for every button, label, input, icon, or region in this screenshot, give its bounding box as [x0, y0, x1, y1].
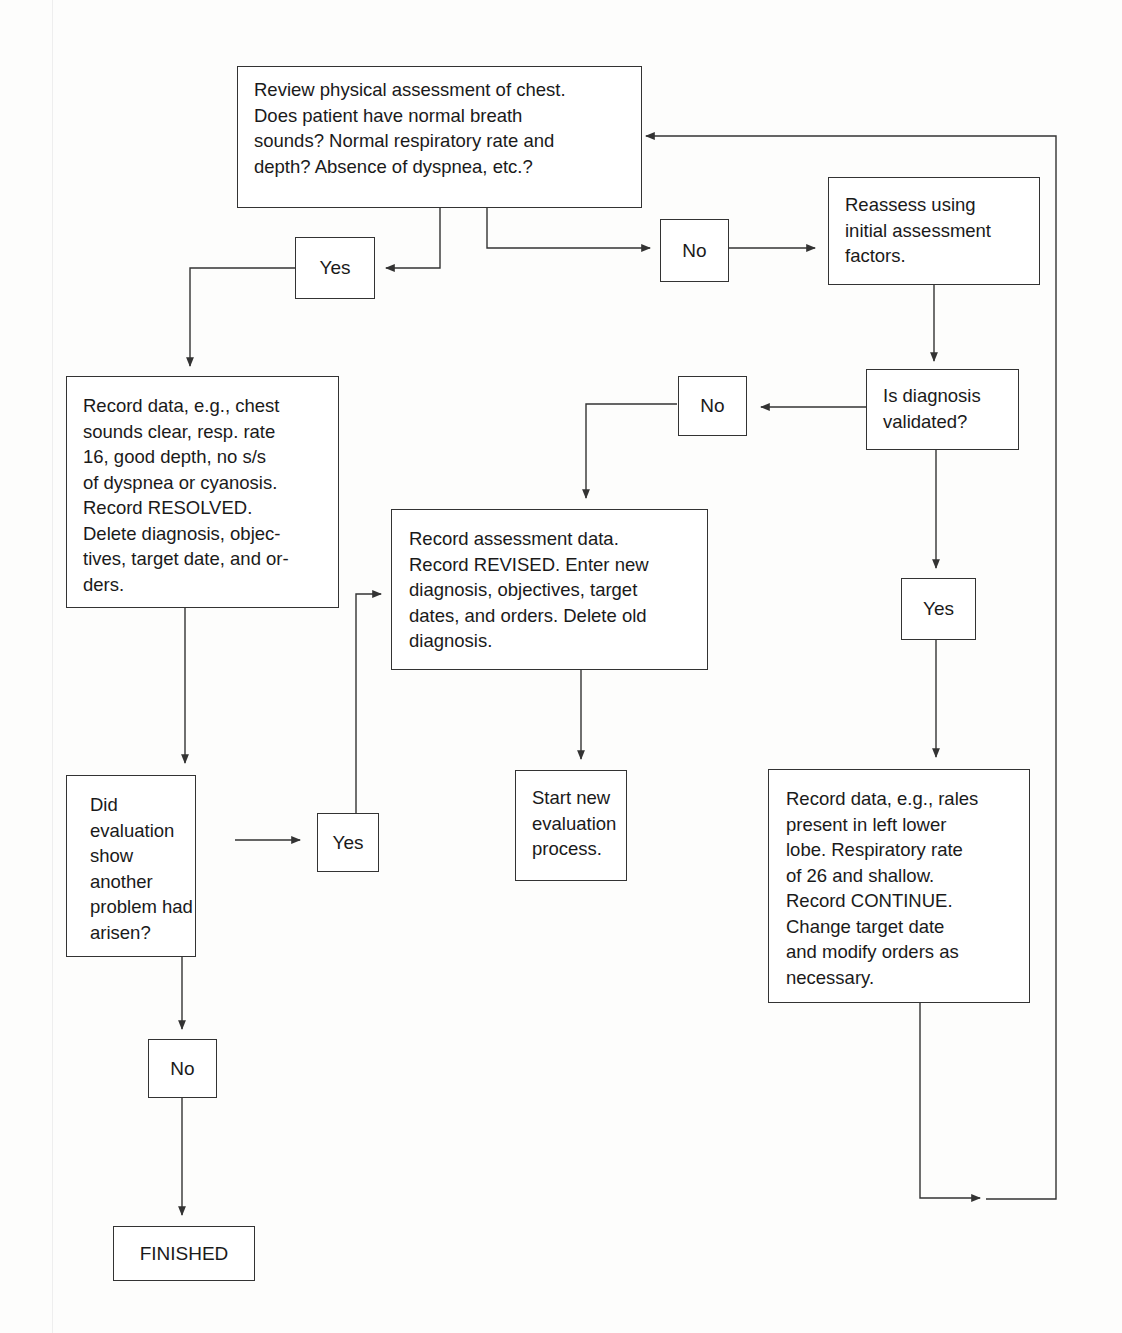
diagnosis-validated-box: Is diagnosis validated?	[866, 369, 1019, 450]
finished-box: FINISHED	[113, 1226, 255, 1281]
start-new-evaluation-box: Start new evaluation process.	[515, 770, 627, 881]
no-decision-validated: No	[678, 376, 747, 436]
edge-no-revised	[586, 404, 677, 498]
record-revised-box: Record assessment data. Record REVISED. …	[391, 509, 708, 670]
flowchart-canvas: Review physical assessment of chest. Doe…	[0, 0, 1122, 1333]
edge-yes-resolved	[190, 268, 295, 366]
yes-decision-problem: Yes	[317, 813, 379, 872]
review-assessment-box: Review physical assessment of chest. Doe…	[237, 66, 642, 208]
no-decision-problem: No	[148, 1039, 217, 1098]
reassess-box: Reassess using initial assessment factor…	[828, 177, 1040, 285]
another-problem-box: Did evaluation show another problem had …	[66, 775, 196, 957]
edge-review-yes	[386, 207, 440, 268]
yes-decision-validated: Yes	[901, 578, 976, 640]
record-continue-box: Record data, e.g., rales present in left…	[768, 769, 1030, 1003]
record-resolved-box: Record data, e.g., chest sounds clear, r…	[66, 376, 339, 608]
edge-continue-loop	[920, 1002, 980, 1198]
edge-yes-revised	[356, 594, 381, 813]
edge-review-no	[487, 207, 650, 248]
yes-decision-top: Yes	[295, 237, 375, 299]
no-decision-top: No	[660, 219, 729, 282]
